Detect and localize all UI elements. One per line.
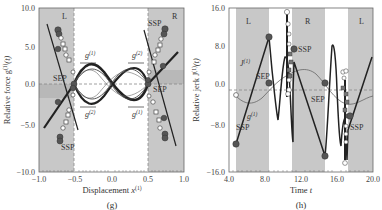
panel-g: L R SSP SEP SEP SSP g(1) g(2) g(2) g(1) … [2, 4, 189, 210]
svg-text:−8.0: −8.0 [210, 121, 225, 130]
region-label-R-h: R [305, 17, 311, 26]
ssp-label-3-h: SSP [350, 123, 364, 132]
sep-label-1-h: SEP [256, 72, 270, 81]
svg-text:−0.5: −0.5 [68, 175, 83, 184]
svg-text:0.0: 0.0 [107, 175, 117, 184]
y-axis-label-g: Relative force g(1)(t) [2, 55, 12, 124]
g1-label-bottom: g(1) [132, 109, 143, 119]
svg-text:−5.0: −5.0 [20, 121, 35, 130]
sep-label-2-h: SEP [311, 95, 325, 104]
svg-text:4.0: 4.0 [224, 175, 234, 184]
svg-text:16.0: 16.0 [211, 4, 225, 13]
svg-text:20.0: 20.0 [366, 175, 380, 184]
figure: L R SSP SEP SEP SSP g(1) g(2) g(2) g(1) … [0, 0, 382, 210]
panel-h: L R L SSP SEP SEP SSP SSP J(1) g(1) 16.0… [191, 4, 380, 210]
svg-text:8.0: 8.0 [215, 42, 225, 51]
y-axis-label-h: Relative jerk J(1)(t) [191, 58, 201, 122]
svg-text:10.0: 10.0 [21, 4, 35, 13]
marker-cluster-1 [284, 9, 293, 97]
svg-text:0.5: 0.5 [143, 175, 153, 184]
svg-text:12.0: 12.0 [294, 175, 308, 184]
x-ticks-g: −1.0 −0.5 0.0 0.5 1.0 [32, 175, 189, 184]
y-ticks-h: 16.0 8.0 0.0 −8.0 −16.0 [206, 4, 225, 177]
svg-text:−1.0: −1.0 [32, 175, 47, 184]
region-label-L1-h: L [246, 17, 251, 26]
region-label-R-g: R [172, 12, 178, 21]
svg-text:0.0: 0.0 [215, 80, 225, 89]
region-label-L2-h: L [359, 17, 364, 26]
ssp-label-2-h: SSP [236, 123, 250, 132]
g2-label-top: g(2) [132, 50, 143, 60]
svg-text:1.0: 1.0 [179, 175, 189, 184]
sep-label-right-g: SEP [153, 85, 167, 94]
svg-text:5.0: 5.0 [25, 43, 35, 52]
caption-g: (g) [107, 200, 118, 210]
caption-h: (h) [296, 200, 307, 210]
svg-text:16.0: 16.0 [330, 175, 344, 184]
ssp-label-left-g: SSP [61, 143, 75, 152]
svg-text:0.0: 0.0 [25, 80, 35, 89]
g2-label-bottom: g(2) [85, 109, 96, 119]
g1-label-top: g(1) [85, 50, 96, 60]
x-axis-label-h: Time t [290, 185, 313, 195]
ssp-label-right-g: SSP [148, 19, 162, 28]
open-marker-start-h [234, 93, 239, 98]
svg-text:−16.0: −16.0 [206, 168, 225, 177]
x-ticks-h: 4.0 8.0 12.0 16.0 20.0 [224, 175, 380, 184]
ssp-label-1-h: SSP [298, 45, 312, 54]
region-label-L-g: L [62, 12, 67, 21]
svg-text:8.0: 8.0 [260, 175, 270, 184]
sep-label-left-g: SEP [53, 74, 67, 83]
y-ticks-g: 10.0 5.0 0.0 −5.0 −10.0 [16, 4, 35, 177]
x-axis-label-g: Displacement x(1) [82, 185, 141, 195]
